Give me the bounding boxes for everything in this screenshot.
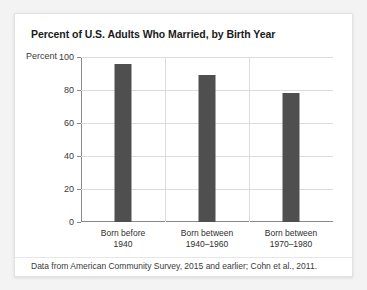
y-axis-unit-label: Percent [26,51,57,61]
chart-card: Percent of U.S. Adults Who Married, by B… [14,13,353,277]
y-axis-tick-label: 0 [69,217,74,227]
x-axis-category-label-line: Born between [165,228,249,239]
footnote-divider [15,257,352,258]
bar[interactable] [115,64,132,222]
x-axis-category-label-line: 1940–1960 [165,239,249,250]
x-axis-category-label-line: 1940 [81,239,165,250]
bar-slot: Born between1970–1980 [249,57,333,222]
bar-slot: Born before1940 [81,57,165,222]
y-axis-tick-label: 100 [59,52,74,62]
x-axis-category-label: Born between1970–1980 [249,228,333,250]
bar[interactable] [283,93,300,222]
x-axis-category-label-line: Born between [249,228,333,239]
source-note: Data from American Community Survey, 201… [31,261,317,271]
y-axis-tick [77,222,81,223]
x-axis-category-label: Born between1940–1960 [165,228,249,250]
bar-slot: Born between1940–1960 [165,57,249,222]
bar[interactable] [199,75,216,222]
y-axis-tick-label: 40 [64,151,74,161]
chart-title: Percent of U.S. Adults Who Married, by B… [31,28,275,40]
x-axis-category-label-line: 1970–1980 [249,239,333,250]
x-axis-category-label: Born before1940 [81,228,165,250]
y-axis-tick-label: 60 [64,118,74,128]
y-axis-tick-label: 80 [64,85,74,95]
x-axis-category-label-line: Born before [81,228,165,239]
y-axis-tick-label: 20 [64,184,74,194]
plot-area: 020406080100 Born before1940Born between… [81,57,333,222]
